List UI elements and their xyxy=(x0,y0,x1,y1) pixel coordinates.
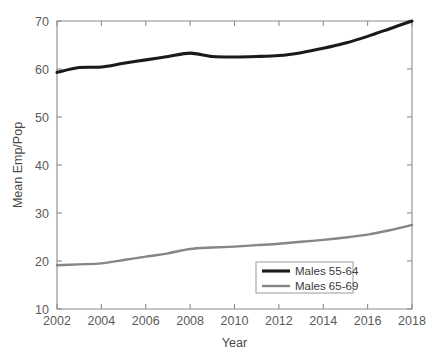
x-tick-label: 2010 xyxy=(221,314,249,328)
x-tick-label: 2006 xyxy=(132,314,160,328)
data-series-group xyxy=(57,21,412,265)
y-axis-tick-labels: 10203040506070 xyxy=(35,15,49,317)
y-tick-label: 10 xyxy=(35,303,49,317)
x-tick-label: 2018 xyxy=(398,314,426,328)
x-tick-label: 2004 xyxy=(87,314,115,328)
legend-label-1: Males 55-64 xyxy=(295,265,359,277)
line-chart: 200220042006200820102012201420162018 102… xyxy=(0,0,439,363)
x-axis-title: Year xyxy=(222,336,247,350)
x-tick-label: 2014 xyxy=(309,314,337,328)
x-tick-label: 2008 xyxy=(176,314,204,328)
y-tick-label: 20 xyxy=(35,255,49,269)
legend-label-2: Males 65-69 xyxy=(295,280,358,292)
chart-container: 200220042006200820102012201420162018 102… xyxy=(0,0,439,363)
y-tick-label: 30 xyxy=(35,207,49,221)
chart-legend: Males 55-64Males 65-69 xyxy=(256,262,359,293)
series-line-males-55-64 xyxy=(57,21,412,72)
x-tick-label: 2012 xyxy=(265,314,293,328)
y-tick-label: 40 xyxy=(35,159,49,173)
series-line-males-65-69 xyxy=(57,225,412,265)
y-tick-label: 50 xyxy=(35,111,49,125)
y-tick-label: 70 xyxy=(35,15,49,29)
x-axis-tick-labels: 200220042006200820102012201420162018 xyxy=(43,314,426,328)
y-tick-label: 60 xyxy=(35,63,49,77)
x-tick-label: 2016 xyxy=(354,314,382,328)
y-axis-title: Mean Emp/Pop xyxy=(11,122,25,208)
